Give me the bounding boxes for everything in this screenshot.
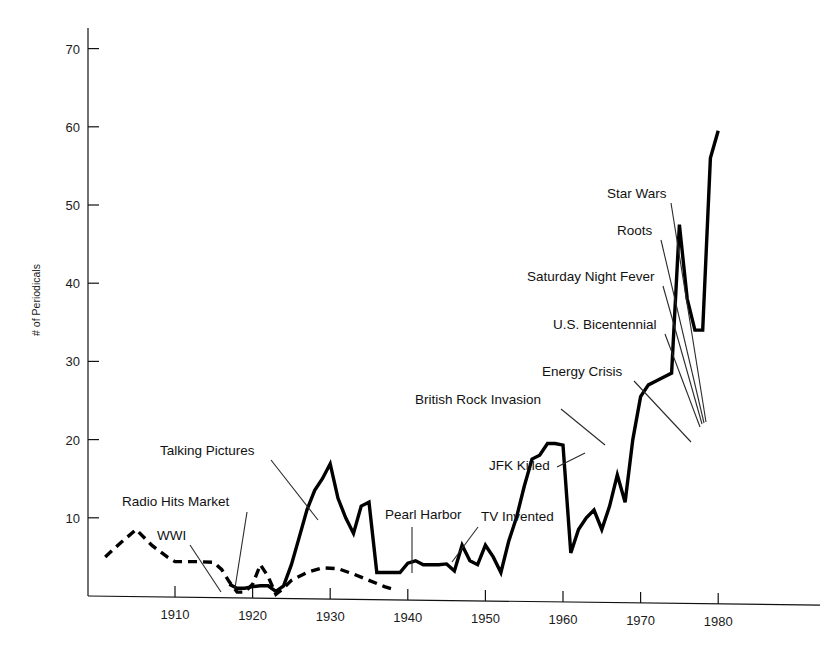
x-axis-line: [88, 596, 820, 605]
annotation-label: U.S. Bicentennial: [553, 317, 657, 332]
y-tick-label: 20: [66, 433, 80, 448]
y-axis-title: # of Periodicals: [30, 264, 42, 336]
leader-line: [452, 527, 478, 562]
y-axis-ticks: 10203040506070: [66, 42, 99, 526]
annotation-label: Pearl Harbor: [385, 507, 462, 522]
x-tick-label: 1910: [161, 607, 190, 622]
x-tick-label: 1980: [704, 614, 733, 629]
annotation-label: Talking Pictures: [160, 443, 255, 458]
x-tick-label: 1920: [238, 608, 267, 623]
x-tick-label: 1950: [471, 611, 500, 626]
x-tick-label: 1940: [393, 610, 422, 625]
leader-line: [557, 453, 585, 467]
y-tick-label: 70: [66, 42, 80, 57]
x-tick-label: 1960: [549, 612, 578, 627]
annotation-labels: Radio Hits MarketWWITalking PicturesPear…: [122, 186, 667, 543]
x-tick-label: 1930: [316, 609, 345, 624]
leader-line: [235, 512, 247, 588]
chart-canvas: 10203040506070 1910192019301940195019601…: [0, 0, 834, 667]
annotation-label: Star Wars: [607, 186, 667, 201]
leader-line: [561, 409, 605, 445]
y-tick-label: 40: [66, 276, 80, 291]
y-tick-label: 30: [66, 354, 80, 369]
leader-line: [271, 460, 318, 520]
y-tick-label: 50: [66, 198, 80, 213]
annotation-label: Saturday Night Fever: [527, 269, 655, 284]
y-tick-label: 10: [66, 511, 80, 526]
annotation-label: Radio Hits Market: [122, 494, 230, 509]
leader-line: [190, 545, 221, 592]
annotation-label: TV Invented: [481, 509, 554, 524]
annotation-label: Energy Crisis: [542, 364, 623, 379]
y-tick-label: 60: [66, 120, 80, 135]
annotation-label: WWI: [157, 528, 186, 543]
leader-line: [665, 334, 700, 427]
series-line-dashed: [105, 530, 392, 595]
leader-line: [634, 381, 691, 442]
annotation-label: Roots: [617, 223, 653, 238]
x-axis-ticks: 19101920193019401950196019701980: [161, 586, 733, 629]
annotation-label: British Rock Invasion: [415, 392, 541, 407]
x-tick-label: 1970: [626, 613, 655, 628]
line-chart: 10203040506070 1910192019301940195019601…: [0, 0, 834, 667]
y-axis-title-text: # of Periodicals: [30, 264, 42, 336]
leader-line: [663, 286, 702, 424]
annotation-label: JFK Killed: [489, 458, 550, 473]
